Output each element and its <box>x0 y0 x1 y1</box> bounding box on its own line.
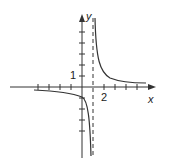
y-tick-label-1: 1 <box>70 69 76 81</box>
x-axis-arrow-icon <box>148 84 156 90</box>
x-tick-label-2: 2 <box>101 91 107 103</box>
curve-right-branch <box>95 18 146 83</box>
x-axis-label: x <box>148 93 154 105</box>
graph-canvas <box>0 0 169 166</box>
y-axis-arrow-icon <box>79 14 85 22</box>
y-axis-label: y <box>86 10 92 22</box>
